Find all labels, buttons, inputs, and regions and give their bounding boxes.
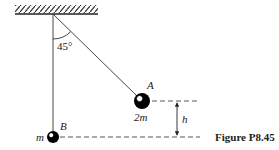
angle-label: 45° — [57, 40, 72, 52]
height-label: h — [182, 113, 188, 125]
ball-a — [134, 93, 150, 109]
pendulum-figure: 45° h A 2m B m Figure P8.45 — [0, 0, 279, 150]
figure-caption: Figure P8.45 — [215, 131, 275, 143]
string-a — [53, 14, 137, 96]
angle-arc — [53, 32, 71, 39]
ball-a-label: A — [146, 79, 154, 91]
ball-b-mass: m — [36, 131, 44, 143]
ball-b — [47, 131, 59, 143]
ball-b-label: B — [60, 120, 67, 132]
ceiling — [15, 5, 98, 14]
ball-a-mass: 2m — [134, 111, 148, 123]
